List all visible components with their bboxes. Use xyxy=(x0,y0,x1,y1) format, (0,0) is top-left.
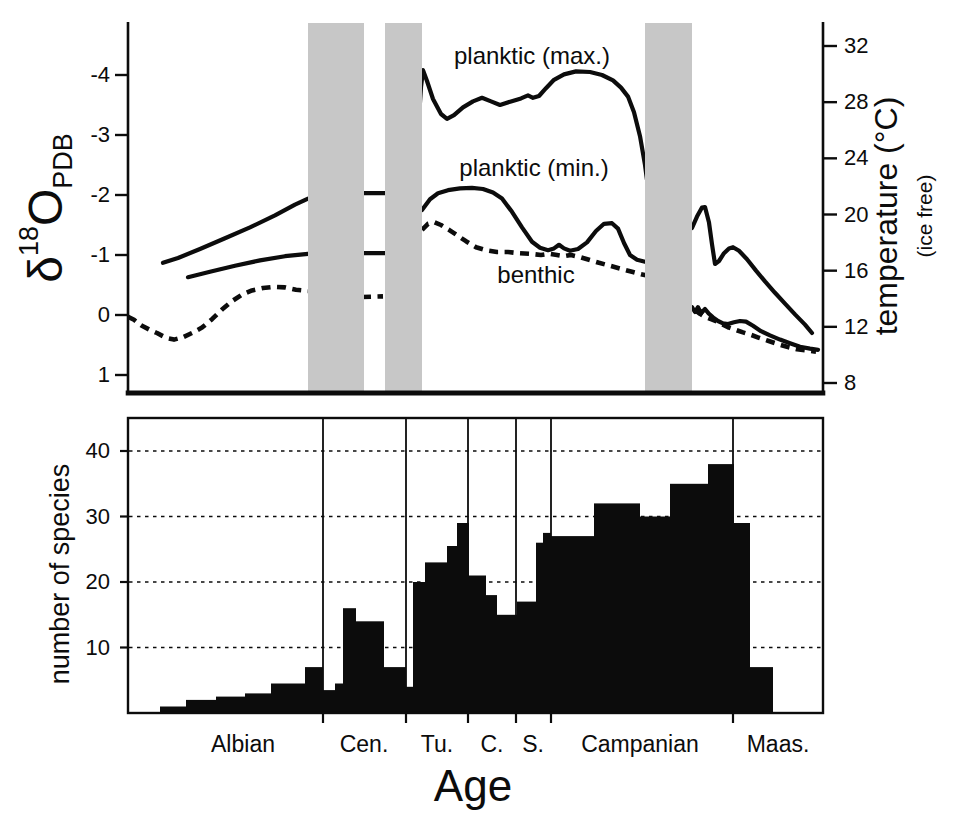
ice-free-note: (ice free) xyxy=(913,175,937,258)
top-y-tick-label: 1 xyxy=(64,362,110,388)
stage-label-tu: Tu. xyxy=(421,731,453,758)
temperature-axis-title: temperature (°C) xyxy=(868,97,905,336)
isotope-superscript: 18 xyxy=(14,226,44,256)
top-y-tick-label: 0 xyxy=(64,302,110,328)
stage-label-s: S. xyxy=(522,731,544,758)
stage-label-campanian: Campanian xyxy=(581,731,699,758)
figure: δ18OPDB temperature (°C) (ice free) plan… xyxy=(0,0,953,829)
planktic-max-label: planktic (max.) xyxy=(454,42,610,70)
species-tick-label: 10 xyxy=(64,635,110,661)
species-tick-label: 20 xyxy=(64,569,110,595)
species-tick-label: 30 xyxy=(64,504,110,530)
temperature-tick-label: 28 xyxy=(844,89,868,115)
stage-label-cen: Cen. xyxy=(340,731,389,758)
planktic-min-label: planktic (min.) xyxy=(459,154,608,182)
temperature-tick-label: 12 xyxy=(844,314,868,340)
temperature-tick-label: 32 xyxy=(844,33,868,59)
species-tick-label: 40 xyxy=(64,438,110,464)
temperature-tick-label: 8 xyxy=(844,370,856,396)
chart-canvas xyxy=(0,0,953,829)
stage-label-maas: Maas. xyxy=(747,731,810,758)
temperature-tick-label: 20 xyxy=(844,202,868,228)
top-y-tick-label: -2 xyxy=(64,182,110,208)
x-axis-title: Age xyxy=(434,761,512,811)
top-y-tick-label: -3 xyxy=(64,122,110,148)
temperature-tick-label: 24 xyxy=(844,145,868,171)
stage-label-albian: Albian xyxy=(211,731,275,758)
stage-label-c: C. xyxy=(481,731,504,758)
top-y-tick-label: -1 xyxy=(64,242,110,268)
temperature-tick-label: 16 xyxy=(844,258,868,284)
benthic-label: benthic xyxy=(497,261,574,289)
top-y-tick-label: -4 xyxy=(64,62,110,88)
